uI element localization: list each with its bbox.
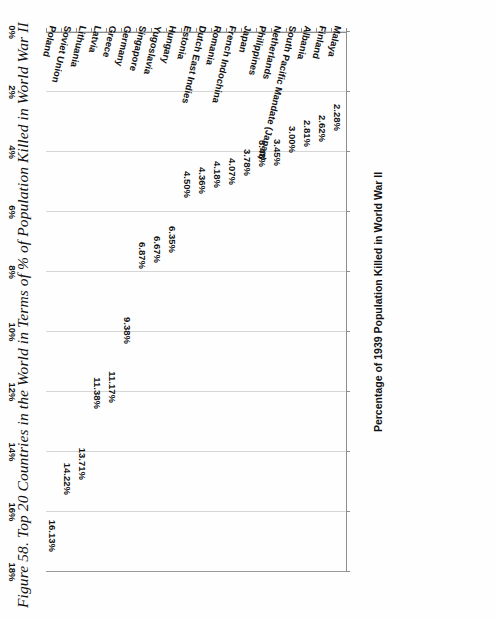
bar-value-label: 4.07% [227,158,238,185]
bar-value-label: 11.38% [92,377,103,409]
value-tick [346,31,350,32]
bar-value-label: 6.35% [167,227,178,254]
value-tick-label: 8% [7,258,18,286]
bar-value-label: 3.78% [242,149,253,176]
bar-value-label: 3.45% [272,140,283,167]
value-tick [346,391,350,392]
figure-page: Figure 58. Top 20 Countries in the World… [0,0,496,620]
bar-value-label: 4.18% [212,161,223,188]
gridline [46,211,346,212]
value-axis [346,32,347,572]
bar-value-label: 6.67% [152,236,163,263]
bar [64,32,74,459]
value-tick-label: 18% [7,558,18,586]
value-tick-label: 2% [7,78,18,106]
value-axis-title: Percentage of 1939 Population Killed in … [372,32,384,572]
value-tick [346,271,350,272]
bar-value-label: 16.13% [47,520,58,552]
bar-value-label: 2.62% [317,115,328,142]
value-tick-label: 16% [7,498,18,526]
gridline [46,331,346,332]
bar-value-label: 2.28% [332,104,343,131]
value-tick [346,511,350,512]
bar [94,32,104,373]
bar [79,32,89,443]
value-tick-label: 12% [7,378,18,406]
value-tick-label: 4% [7,138,18,166]
value-tick [346,211,350,212]
gridline [46,91,346,92]
bar [109,32,119,367]
value-tick-label: 10% [7,318,18,346]
bar-value-label: 6.87% [137,242,148,269]
plot-area: 16.13%14.22%13.71%11.38%11.17%9.38%6.87%… [46,32,346,572]
gridline [46,451,346,452]
rotated-figure-canvas: Figure 58. Top 20 Countries in the World… [0,0,496,620]
bar-value-label: 4.36% [197,167,208,194]
value-tick [346,151,350,152]
bar-value-label: 2.81% [302,120,313,147]
gridline [46,511,346,512]
value-tick-label: 6% [7,198,18,226]
bar-value-label: 14.22% [62,463,73,495]
gridline [46,391,346,392]
value-tick [346,571,350,572]
gridline [46,151,346,152]
bar-value-label: 13.71% [77,447,88,479]
bar-value-label: 9.38% [122,317,133,344]
value-tick-label: 0% [7,18,18,46]
bar-value-label: 4.50% [182,171,193,198]
value-tick [346,451,350,452]
bar [124,32,134,313]
bar [49,32,59,516]
value-tick [346,91,350,92]
bar-value-label: 11.17% [107,371,118,403]
value-tick [346,331,350,332]
bar-value-label: 3.00% [287,126,298,153]
gridline [46,271,346,272]
value-tick-label: 14% [7,438,18,466]
gridline [46,571,346,572]
